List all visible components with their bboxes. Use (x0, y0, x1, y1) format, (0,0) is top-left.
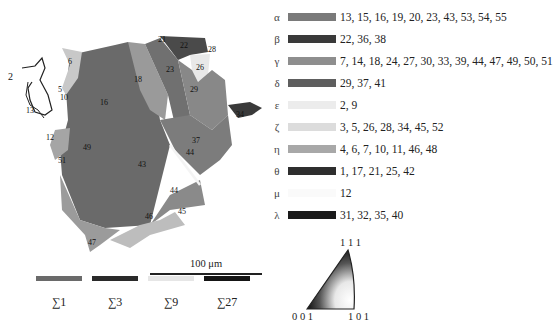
legend-row-zeta: ζ 3, 5, 26, 28, 34, 45, 52 (270, 118, 444, 136)
legend-swatch (288, 145, 336, 153)
grain-orientation-map: 2 5 6 10 12 13 16 18 21 22 23 26 28 29 3… (0, 0, 280, 270)
grain-label: 23 (166, 65, 174, 74)
legend-values: 13, 15, 16, 19, 20, 23, 43, 53, 54, 55 (340, 11, 507, 23)
grain-label: 45 (178, 207, 186, 216)
boundary-swatch (36, 276, 82, 281)
grain-label: 26 (196, 63, 204, 72)
grain-label: 29 (190, 85, 198, 94)
grain-label: 34 (236, 110, 244, 119)
legend-swatch (288, 123, 336, 131)
legend-row-gamma: γ 7, 14, 18, 24, 27, 30, 33, 39, 44, 47,… (270, 52, 553, 70)
legend-values: 4, 6, 7, 10, 11, 46, 48 (340, 143, 437, 155)
grain-34 (228, 102, 262, 118)
legend-row-alpha: α 13, 15, 16, 19, 20, 23, 43, 53, 54, 55 (270, 8, 507, 26)
grain-label: 10 (60, 93, 68, 102)
boundary-sigma3: ∑3 (92, 276, 138, 310)
legend-symbol: μ (270, 187, 284, 199)
legend-swatch (288, 211, 336, 219)
legend-row-beta: β 22, 36, 38 (270, 30, 386, 48)
legend-swatch (288, 79, 336, 87)
grain-label: 44 (186, 148, 194, 157)
ipf-label-101: 1 0 1 (348, 311, 369, 322)
legend-swatch (288, 189, 336, 197)
grain-label: 37 (192, 136, 200, 145)
legend-swatch (288, 101, 336, 109)
legend-symbol: ζ (270, 121, 284, 133)
grain-label: 22 (180, 41, 188, 50)
legend-swatch (288, 57, 336, 65)
grain-label: 2 (8, 71, 13, 82)
legend-values: 31, 32, 35, 40 (340, 209, 403, 221)
ipf-triangle (307, 250, 354, 309)
legend-row-theta: θ 1, 17, 21, 25, 42 (270, 162, 415, 180)
boundary-label: ∑1 (36, 295, 82, 310)
legend-symbol: λ (270, 209, 284, 221)
boundary-sigma1: ∑1 (36, 276, 82, 310)
grain-label: 6 (68, 57, 72, 66)
ipf-label-001: 0 0 1 (292, 311, 313, 322)
grain-label: 46 (145, 212, 153, 221)
legend-row-eta: η 4, 6, 7, 10, 11, 46, 48 (270, 140, 437, 158)
legend-row-mu: μ 12 (270, 184, 352, 202)
legend-symbol: β (270, 33, 284, 45)
grain-label: 47 (88, 238, 96, 247)
grain-label: 16 (100, 98, 108, 107)
grain-label: 49 (83, 143, 91, 152)
legend-symbol: θ (270, 165, 284, 177)
grain-label: 51 (58, 156, 66, 165)
inverse-pole-figure-triangle: 1 1 1 0 0 1 1 0 1 (290, 222, 430, 322)
boundary-sigma27: ∑27 (204, 276, 250, 310)
legend-swatch (288, 35, 336, 43)
grain-label: 13 (26, 106, 34, 115)
grain-label: 21 (158, 35, 166, 44)
legend-symbol: η (270, 143, 284, 155)
boundary-label: ∑27 (204, 295, 250, 310)
legend-values: 12 (340, 187, 352, 199)
boundary-swatch (92, 276, 138, 281)
grain-label: 44 (170, 186, 178, 195)
grain-label: 28 (208, 45, 216, 54)
legend-values: 2, 9 (340, 99, 357, 111)
boundary-sigma9: ∑9 (148, 276, 194, 310)
boundary-swatch (204, 276, 250, 281)
grain-label: 18 (134, 75, 142, 84)
legend-row-epsilon: ε 2, 9 (270, 96, 357, 114)
legend-row-delta: δ 29, 37, 41 (270, 74, 386, 92)
boundary-label: ∑3 (92, 295, 138, 310)
boundary-label: ∑9 (148, 295, 194, 310)
legend-values: 3, 5, 26, 28, 34, 45, 52 (340, 121, 444, 133)
legend-values: 29, 37, 41 (340, 77, 386, 89)
scale-bar (150, 273, 262, 275)
boundary-swatch (148, 276, 194, 281)
ipf-label-111: 1 1 1 (340, 237, 361, 248)
legend-values: 7, 14, 18, 24, 27, 30, 33, 39, 44, 47, 4… (340, 55, 553, 67)
legend-symbol: δ (270, 77, 284, 89)
legend-symbol: γ (270, 55, 284, 67)
grain-label: 43 (138, 160, 146, 169)
legend-values: 22, 36, 38 (340, 33, 386, 45)
grain-label: 12 (46, 133, 54, 142)
legend-symbol: ε (270, 99, 284, 111)
scale-bar-label: 100 μm (150, 258, 262, 269)
legend-swatch (288, 13, 336, 21)
legend-swatch (288, 167, 336, 175)
legend-symbol: α (270, 11, 284, 23)
legend-values: 1, 17, 21, 25, 42 (340, 165, 415, 177)
